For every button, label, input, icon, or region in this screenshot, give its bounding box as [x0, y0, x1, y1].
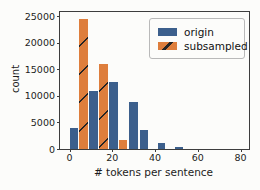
- bar-origin-5: [158, 143, 165, 149]
- legend-label-subsampled: subsampled: [184, 40, 248, 52]
- legend-item-origin: origin: [158, 26, 237, 38]
- y-tick-label: 5000: [19, 117, 55, 128]
- x-tick-label: 40: [140, 153, 170, 163]
- y-tick-label: 20000: [19, 37, 55, 48]
- x-tick-label: 60: [183, 153, 213, 163]
- origin-swatch-icon: [158, 28, 177, 36]
- bar-subsampled-2: [119, 140, 127, 149]
- y-tick-mark: [57, 16, 60, 17]
- y-tick-mark: [57, 96, 60, 97]
- histogram-figure: count 0204060800500010000150002000025000…: [0, 0, 260, 190]
- y-tick-mark: [57, 149, 60, 150]
- legend-label-origin: origin: [184, 26, 214, 38]
- y-tick-mark: [57, 43, 60, 44]
- bar-origin-3: [129, 102, 138, 149]
- bar-origin-4: [140, 130, 148, 149]
- y-tick-label: 25000: [19, 11, 55, 22]
- legend: origin subsampled: [149, 18, 245, 59]
- y-tick-label: 0: [19, 144, 55, 155]
- y-tick-mark: [57, 69, 60, 70]
- bar-origin-1: [89, 91, 98, 149]
- x-tick-label: 20: [97, 153, 127, 163]
- y-tick-label: 15000: [19, 64, 55, 75]
- legend-item-subsampled: subsampled: [158, 40, 237, 52]
- y-tick-mark: [57, 122, 60, 123]
- bar-origin-6: [175, 147, 183, 149]
- bar-origin-2: [109, 82, 118, 149]
- x-tick-label: 80: [226, 153, 256, 163]
- bar-origin-0: [70, 128, 78, 149]
- y-tick-label: 10000: [19, 90, 55, 101]
- bar-subsampled-0: [79, 19, 88, 149]
- x-axis-label: # tokens per sentence: [59, 166, 248, 178]
- subsampled-swatch-icon: [158, 42, 177, 50]
- bar-subsampled-1: [99, 64, 108, 150]
- x-tick-label: 0: [55, 153, 85, 163]
